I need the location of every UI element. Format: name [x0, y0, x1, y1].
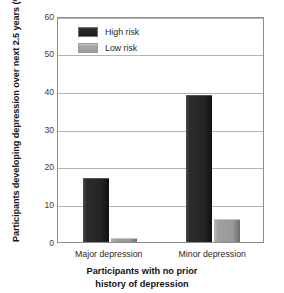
- bar-major-depression-low-risk[interactable]: [111, 238, 137, 242]
- gridline-30: [58, 131, 263, 132]
- y-tick-label-30: 30: [36, 126, 54, 135]
- y-tick-label-10: 10: [36, 201, 54, 210]
- legend-swatch-high-risk: [78, 27, 98, 37]
- legend-label-high-risk: High risk: [105, 27, 139, 37]
- legend-item-high-risk[interactable]: High risk: [78, 25, 174, 39]
- bar-minor-depression-high-risk[interactable]: [186, 95, 212, 242]
- y-tick-label-0: 0: [36, 239, 54, 248]
- gridline-20: [58, 168, 263, 169]
- y-tick-label-50: 50: [36, 50, 54, 59]
- y-tick-label-20: 20: [36, 163, 54, 172]
- y-tick-label-60: 60: [36, 13, 54, 22]
- bar-chart-figure: Participants developing depression over …: [0, 0, 284, 293]
- plot-area: High risk Low risk: [57, 17, 264, 243]
- y-axis-title: Participants developing depression over …: [8, 2, 24, 242]
- bar-minor-depression-low-risk[interactable]: [214, 219, 240, 242]
- chart-legend: High risk Low risk: [78, 25, 174, 57]
- legend-swatch-low-risk: [78, 43, 98, 53]
- bar-major-depression-high-risk[interactable]: [83, 178, 109, 242]
- x-axis-category-labels: Major depressionMinor depression: [57, 248, 264, 262]
- gridline-40: [58, 93, 263, 94]
- gridline-60: [58, 18, 263, 19]
- x-axis-title-line1: Participants with no prior: [0, 265, 284, 278]
- x-axis-title-line2: history of depression: [0, 278, 284, 291]
- x-category-label-minor-depression: Minor depression: [161, 248, 265, 260]
- y-axis-tick-labels: 0102030405060: [33, 0, 54, 293]
- x-category-label-major-depression: Major depression: [57, 248, 161, 260]
- legend-item-low-risk[interactable]: Low risk: [78, 41, 174, 55]
- x-axis-title: Participants with no prior history of de…: [0, 265, 284, 291]
- legend-label-low-risk: Low risk: [105, 43, 137, 53]
- y-tick-label-40: 40: [36, 88, 54, 97]
